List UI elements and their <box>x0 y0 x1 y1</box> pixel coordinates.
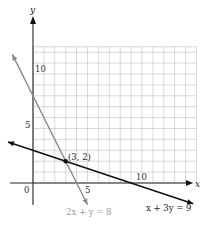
grid <box>33 47 197 183</box>
x-axis-arrow-icon <box>186 180 193 186</box>
axes <box>10 16 193 205</box>
intersection-label: (3, 2) <box>68 152 91 162</box>
equation-label-x-plus-3y: x + 3y = 9 <box>146 203 191 213</box>
x-axis-label: x <box>195 179 200 189</box>
line-x-plus-3y-eq-9 <box>8 142 193 204</box>
y-tick-label-5: 5 <box>25 120 30 130</box>
origin-label: 0 <box>24 185 29 195</box>
x-tick-label-10: 10 <box>136 172 147 182</box>
line-arrow-start-icon <box>8 141 15 146</box>
y-axis-arrow-icon <box>30 16 36 24</box>
plot-lines <box>8 54 193 204</box>
line-2x-plus-y-eq-8 <box>12 54 87 204</box>
x-tick-label-5: 5 <box>85 185 90 195</box>
equation-label-2x-plus-y: 2x + y = 8 <box>66 207 111 217</box>
coordinate-plane: y x 0 5 10 5 10 (3, 2) 2x + y = 8 x + 3y… <box>0 0 203 228</box>
y-axis-label: y <box>29 5 36 15</box>
y-tick-label-10: 10 <box>35 64 46 74</box>
